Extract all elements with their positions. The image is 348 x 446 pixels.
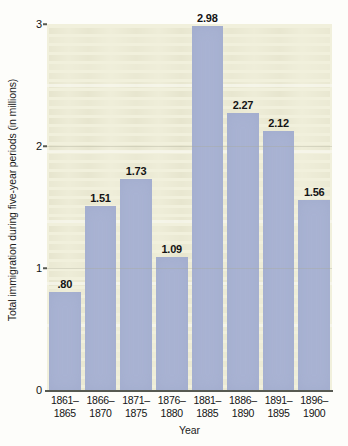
x-tick-label-line: 1891– — [261, 394, 297, 407]
bar — [192, 26, 224, 390]
x-axis-line — [45, 390, 333, 392]
x-tick-label: 1896–1900 — [296, 394, 332, 419]
x-tick-label-line: 1861– — [47, 394, 83, 407]
y-tick-mark — [43, 267, 47, 269]
x-tick-label-line: 1866– — [83, 394, 119, 407]
bar-group: .80 — [47, 24, 83, 390]
y-tick-mark — [43, 145, 47, 147]
x-tick-label-line: 1881– — [190, 394, 226, 407]
x-tick-label: 1876–1880 — [154, 394, 190, 419]
bars-container: .801.511.731.092.982.272.121.56 — [47, 24, 332, 390]
bar-value-label: 1.73 — [118, 165, 154, 177]
bar — [120, 179, 152, 390]
y-tick-label: 3 — [16, 18, 42, 30]
x-tick-label: 1871–1875 — [118, 394, 154, 419]
bar-value-label: 2.98 — [190, 12, 226, 24]
immigration-bar-chart-figure: Total immigration during five-year perio… — [0, 0, 348, 446]
bar — [263, 131, 295, 390]
bar-group: 1.51 — [83, 24, 119, 390]
scan-hairline — [47, 146, 332, 147]
y-tick-label: 1 — [16, 262, 42, 274]
y-axis-label: Total immigration during five-year perio… — [6, 79, 18, 321]
bar-value-label: 2.12 — [261, 117, 297, 129]
bar — [227, 113, 259, 390]
bar-group: 1.73 — [118, 24, 154, 390]
bar-group: 2.27 — [225, 24, 261, 390]
y-tick-label: 2 — [16, 140, 42, 152]
x-axis-label: Year — [47, 424, 332, 436]
bar-group: 2.98 — [190, 24, 226, 390]
plot-area: .801.511.731.092.982.272.121.56 — [47, 24, 332, 390]
x-tick-label-line: 1865 — [47, 407, 83, 420]
x-tick-label-line: 1871– — [118, 394, 154, 407]
x-tick-label-line: 1900 — [296, 407, 332, 420]
bar — [85, 206, 117, 390]
x-tick-label-line: 1885 — [190, 407, 226, 420]
x-tick-label-line: 1880 — [154, 407, 190, 420]
x-axis-ticks: 1861–18651866–18701871–18751876–18801881… — [47, 394, 332, 428]
bar-value-label: 2.27 — [225, 99, 261, 111]
x-tick-label-line: 1886– — [225, 394, 261, 407]
bar — [298, 200, 330, 390]
y-axis-label-container: Total immigration during five-year perio… — [0, 0, 24, 400]
x-tick-label: 1881–1885 — [190, 394, 226, 419]
bar-value-label: 1.56 — [296, 186, 332, 198]
x-tick-label: 1866–1870 — [83, 394, 119, 419]
x-tick-label: 1891–1895 — [261, 394, 297, 419]
bar-group: 2.12 — [261, 24, 297, 390]
bar-value-label: 1.09 — [154, 243, 190, 255]
x-tick-label-line: 1896– — [296, 394, 332, 407]
bar — [49, 292, 81, 390]
x-tick-label: 1886–1890 — [225, 394, 261, 419]
x-tick-label-line: 1895 — [261, 407, 297, 420]
bar-value-label: .80 — [47, 278, 83, 290]
x-tick-label-line: 1875 — [118, 407, 154, 420]
scan-hairline — [47, 268, 332, 269]
x-tick-label-line: 1876– — [154, 394, 190, 407]
bar-group: 1.09 — [154, 24, 190, 390]
bar-group: 1.56 — [296, 24, 332, 390]
x-tick-label-line: 1870 — [83, 407, 119, 420]
bar — [156, 257, 188, 390]
bar-value-label: 1.51 — [83, 192, 119, 204]
x-tick-label: 1861–1865 — [47, 394, 83, 419]
x-tick-label-line: 1890 — [225, 407, 261, 420]
y-tick-mark — [43, 23, 47, 25]
y-tick-label: 0 — [16, 384, 42, 396]
